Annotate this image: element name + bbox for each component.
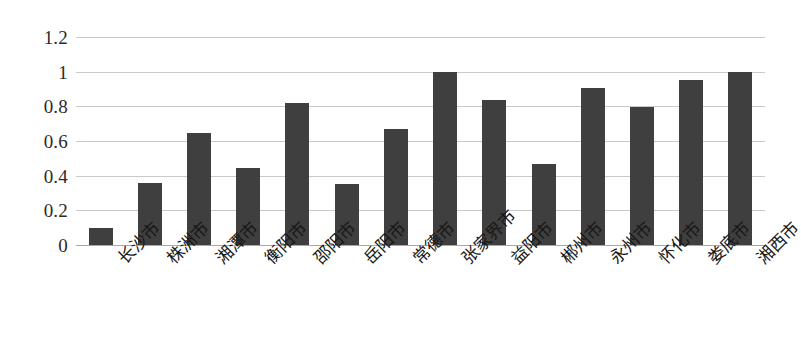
x-axis-tick-label: 湘潭市: [213, 255, 225, 267]
x-axis-tick-label: 岳阳市: [361, 255, 373, 267]
bar-series: [76, 37, 765, 245]
x-axis-tick-label: 株洲市: [164, 255, 176, 267]
y-axis-tick-label: 0.8: [44, 97, 68, 116]
plot-area: [76, 37, 765, 245]
y-axis: 00.20.40.60.811.2: [0, 0, 68, 349]
x-axis-tick-label: 娄底市: [705, 255, 717, 267]
y-axis-tick-label: 0: [58, 236, 68, 255]
x-axis-tick-label: 张家界市: [459, 255, 471, 267]
y-axis-tick-label: 0.6: [44, 132, 68, 151]
x-axis-tick-label: 郴州市: [558, 255, 570, 267]
y-axis-tick-label: 0.4: [44, 166, 68, 185]
x-axis: 长沙市株洲市湘潭市衡阳市邵阳市岳阳市常德市张家界市益阳市郴州市永州市怀化市娄底市…: [76, 245, 765, 349]
x-axis-tick-label: 衡阳市: [262, 255, 274, 267]
y-axis-tick-label: 1: [58, 62, 68, 81]
x-axis-tick-label: 永州市: [607, 255, 619, 267]
y-axis-tick-label: 1.2: [44, 28, 68, 47]
y-axis-tick-label: 0.2: [44, 201, 68, 220]
x-axis-tick-label: 益阳市: [508, 255, 520, 267]
x-axis-tick-label: 湘西市: [754, 255, 766, 267]
x-axis-tick-label: 邵阳市: [311, 255, 323, 267]
bar-chart: 00.20.40.60.811.2 长沙市株洲市湘潭市衡阳市邵阳市岳阳市常德市张…: [0, 0, 801, 349]
bar: [89, 228, 113, 245]
x-axis-tick-label: 长沙市: [115, 255, 127, 267]
x-axis-tick-label: 常德市: [410, 255, 422, 267]
x-axis-tick-label: 怀化市: [656, 255, 668, 267]
